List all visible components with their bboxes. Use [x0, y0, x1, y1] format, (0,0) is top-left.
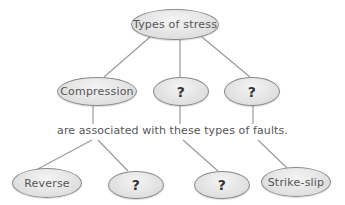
node-fault-unknown-2: ? [194, 171, 250, 199]
question-mark-label: ? [177, 84, 185, 100]
question-mark-label: ? [248, 84, 256, 100]
node-reverse: Reverse [12, 168, 82, 198]
line-text-to-fault-3 [183, 140, 218, 171]
node-label: Types of stress [133, 18, 217, 31]
concept-map: Types of stress Compression ? ? are asso… [0, 0, 345, 205]
line-text-to-strike-slip [258, 140, 287, 168]
node-stress-unknown-1: ? [153, 77, 209, 106]
connector-text: are associated with these types of fault… [0, 124, 345, 137]
line-text-to-fault-2 [98, 140, 128, 171]
node-label: Reverse [24, 177, 70, 190]
question-mark-label: ? [132, 177, 140, 193]
node-fault-unknown-1: ? [108, 171, 164, 199]
line-text-to-reverse [36, 140, 92, 170]
node-stress-unknown-2: ? [224, 77, 280, 106]
node-strike-slip: Strike-slip [261, 167, 331, 197]
line-root-to-compression [104, 37, 150, 77]
node-compression: Compression [57, 77, 137, 106]
node-label: Compression [60, 85, 134, 98]
question-mark-label: ? [218, 177, 226, 193]
node-types-of-stress: Types of stress [131, 9, 219, 40]
node-label: Strike-slip [268, 176, 325, 189]
line-root-to-stress-3 [202, 37, 250, 77]
